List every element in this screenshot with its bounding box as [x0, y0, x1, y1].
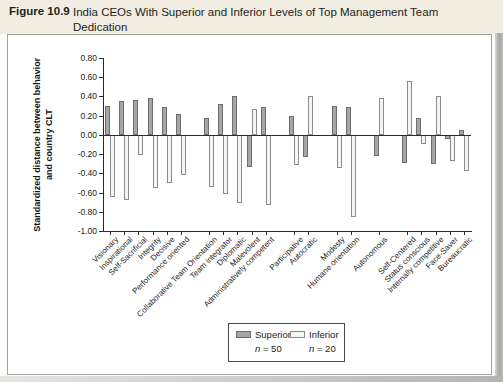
y-tick-label-0.20: 0.20	[80, 111, 97, 121]
legend-superior-label: Superior	[255, 329, 291, 340]
bar-superior-inspirational	[119, 101, 124, 135]
bar-inferior-participative	[294, 135, 299, 165]
x-tick-mark	[223, 232, 224, 235]
bar-inferior-autocratic	[308, 96, 313, 134]
y-tick-label--0.60: -0.60	[78, 188, 97, 198]
legend: Superior Inferior n = 50 n = 20	[228, 323, 345, 362]
x-tick-mark	[436, 232, 437, 235]
y-tick-label-0.80: 0.80	[80, 53, 97, 63]
y-tick-mark	[99, 77, 103, 78]
x-tick-mark	[252, 232, 253, 235]
bar-superior-humane-orientation	[346, 107, 351, 135]
y-axis-label-line2: and country CLT	[44, 109, 54, 180]
y-tick-mark	[99, 116, 103, 117]
x-tick-mark	[337, 232, 338, 235]
figure-number: Figure 10.9	[9, 5, 73, 34]
bar-inferior-malevolent	[252, 109, 257, 135]
y-tick-label--0.80: -0.80	[78, 207, 97, 217]
bar-superior-collaborative-team-orientation	[204, 118, 209, 135]
bar-inferior-self-sacrificial	[138, 135, 143, 155]
y-axis-label-line1: Standardized distance between behavior	[32, 58, 42, 232]
x-tick-mark	[124, 232, 125, 235]
x-tick-mark	[379, 232, 380, 235]
x-tick-mark	[266, 232, 267, 235]
inferior-n-count: n = 20	[290, 343, 344, 354]
bar-superior-performance-oriented	[176, 114, 181, 135]
y-tick-mark	[99, 193, 103, 194]
x-tick-mark	[464, 232, 465, 235]
y-axis-label: Standardized distance between behavior a…	[32, 45, 55, 245]
bar-superior-status-conscious	[416, 118, 421, 135]
y-tick-label-0.40: 0.40	[80, 91, 97, 101]
bar-inferior-autonomous	[379, 98, 384, 135]
x-tick-mark	[110, 232, 111, 235]
x-tick-mark	[138, 232, 139, 235]
x-tick-mark	[209, 232, 210, 235]
bar-superior-autocratic	[303, 135, 308, 157]
x-tick-mark	[450, 232, 451, 235]
x-axis-line	[103, 231, 472, 232]
bar-inferior-integrity	[153, 135, 158, 188]
y-tick-label--0.20: -0.20	[78, 149, 97, 159]
x-tick-mark	[421, 232, 422, 235]
figure-page: Figure 10.9 India CEOs With Superior and…	[0, 0, 503, 382]
y-tick-mark	[99, 212, 103, 213]
x-tick-mark	[308, 232, 309, 235]
bar-superior-visionary	[105, 106, 110, 135]
y-tick-mark	[99, 58, 103, 59]
zero-line	[103, 135, 471, 136]
x-tick-mark	[407, 232, 408, 235]
bar-inferior-self-centered	[407, 81, 412, 135]
legend-inferior-label: Inferior	[309, 329, 339, 340]
x-tick-mark	[181, 232, 182, 235]
bar-inferior-status-conscious	[421, 135, 426, 145]
bar-inferior-administratively-competent	[266, 135, 271, 205]
legend-n-row: n = 50 n = 20	[236, 340, 344, 354]
bar-inferior-internally-competitive	[436, 96, 441, 134]
bar-inferior-collaborative-team-orientation	[209, 135, 214, 187]
y-tick-mark	[99, 135, 103, 136]
bar-superior-modesty	[332, 106, 337, 135]
bar-superior-team-integrator	[218, 104, 223, 135]
x-tick-mark	[351, 232, 352, 235]
bar-inferior-inspirational	[124, 135, 129, 200]
bar-superior-autonomous	[374, 135, 379, 156]
x-tick-mark	[153, 232, 154, 235]
bar-inferior-decisive	[167, 135, 172, 183]
y-tick-label--0.40: -0.40	[78, 168, 97, 178]
bar-inferior-modesty	[337, 135, 342, 168]
inferior-swatch-icon	[290, 331, 305, 338]
bar-inferior-performance-oriented	[181, 135, 186, 175]
superior-n-count: n = 50	[236, 343, 290, 354]
bar-inferior-visionary	[110, 135, 115, 197]
y-tick-label-0.00: 0.00	[80, 130, 97, 140]
page-edge-bottom	[0, 376, 503, 382]
bar-superior-administratively-competent	[261, 107, 266, 135]
bar-inferior-bureaucratic	[464, 135, 469, 172]
bar-inferior-diplomatic	[237, 135, 242, 203]
bar-inferior-face-saver	[450, 135, 455, 161]
bar-inferior-team-integrator	[223, 135, 228, 195]
bar-superior-self-sacrificial	[133, 100, 138, 135]
y-tick-mark	[99, 154, 103, 155]
bar-superior-participative	[289, 116, 294, 135]
legend-labels-row: Superior Inferior	[236, 329, 344, 340]
bar-superior-self-centered	[402, 135, 407, 163]
y-tick-mark	[99, 173, 103, 174]
y-tick-mark	[99, 96, 103, 97]
y-tick-label-0.60: 0.60	[80, 72, 97, 82]
page-edge-right	[495, 33, 503, 382]
y-tick-mark	[99, 231, 103, 232]
bar-superior-internally-competitive	[431, 135, 436, 164]
x-tick-mark	[237, 232, 238, 235]
figure-header: Figure 10.9 India CEOs With Superior and…	[0, 0, 503, 34]
superior-swatch-icon	[236, 331, 251, 338]
legend-item-superior: Superior	[236, 329, 290, 340]
bar-inferior-humane-orientation	[351, 135, 356, 217]
figure-title: India CEOs With Superior and Inferior Le…	[73, 5, 478, 34]
bar-superior-integrity	[148, 98, 153, 135]
bar-superior-diplomatic	[232, 96, 237, 134]
bar-superior-decisive	[162, 107, 167, 135]
y-tick-label--1.00: -1.00	[78, 226, 97, 236]
x-tick-mark	[294, 232, 295, 235]
